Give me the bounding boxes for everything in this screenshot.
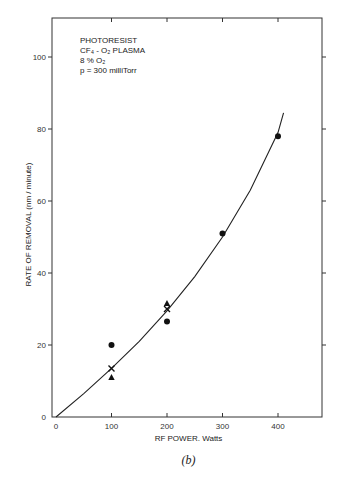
x-tick-label: 300 <box>216 422 230 431</box>
annotation-line-4: p = 300 milliTorr <box>80 66 145 76</box>
y-tick-label: 60 <box>37 197 46 206</box>
x-tick-label: 200 <box>160 422 174 431</box>
annotation-line-3: 8 % O₂ <box>80 56 145 66</box>
plot-frame <box>52 18 322 417</box>
data-point-circle <box>275 133 281 139</box>
y-tick-label: 80 <box>37 125 46 134</box>
data-point-triangle <box>164 300 170 306</box>
x-tick-label: 0 <box>54 422 59 431</box>
x-tick-label: 400 <box>271 422 285 431</box>
y-tick-label: 20 <box>37 341 46 350</box>
chart-plot: 0100200300400020406080100 <box>0 0 337 480</box>
x-axis-label: RF POWER. Watts <box>0 434 337 443</box>
x-tick-label: 100 <box>105 422 119 431</box>
chart-annotation: PHOTORESIST CF₄ - O₂ PLASMA 8 % O₂ p = 3… <box>80 36 145 76</box>
annotation-line-1: PHOTORESIST <box>80 36 145 46</box>
y-tick-label: 0 <box>42 413 47 422</box>
data-point-circle <box>109 342 115 348</box>
data-point-cross <box>109 365 115 371</box>
y-tick-label: 100 <box>33 53 47 62</box>
y-tick-label: 40 <box>37 269 46 278</box>
data-point-circle <box>164 319 170 325</box>
fit-curve <box>56 113 284 417</box>
figure-caption: (b) <box>0 453 337 468</box>
annotation-line-2: CF₄ - O₂ PLASMA <box>80 46 145 56</box>
y-axis-label: RATE OF REMOVAL (nm / minute) <box>24 145 33 305</box>
data-point-triangle <box>108 374 114 380</box>
data-point-circle <box>220 230 226 236</box>
